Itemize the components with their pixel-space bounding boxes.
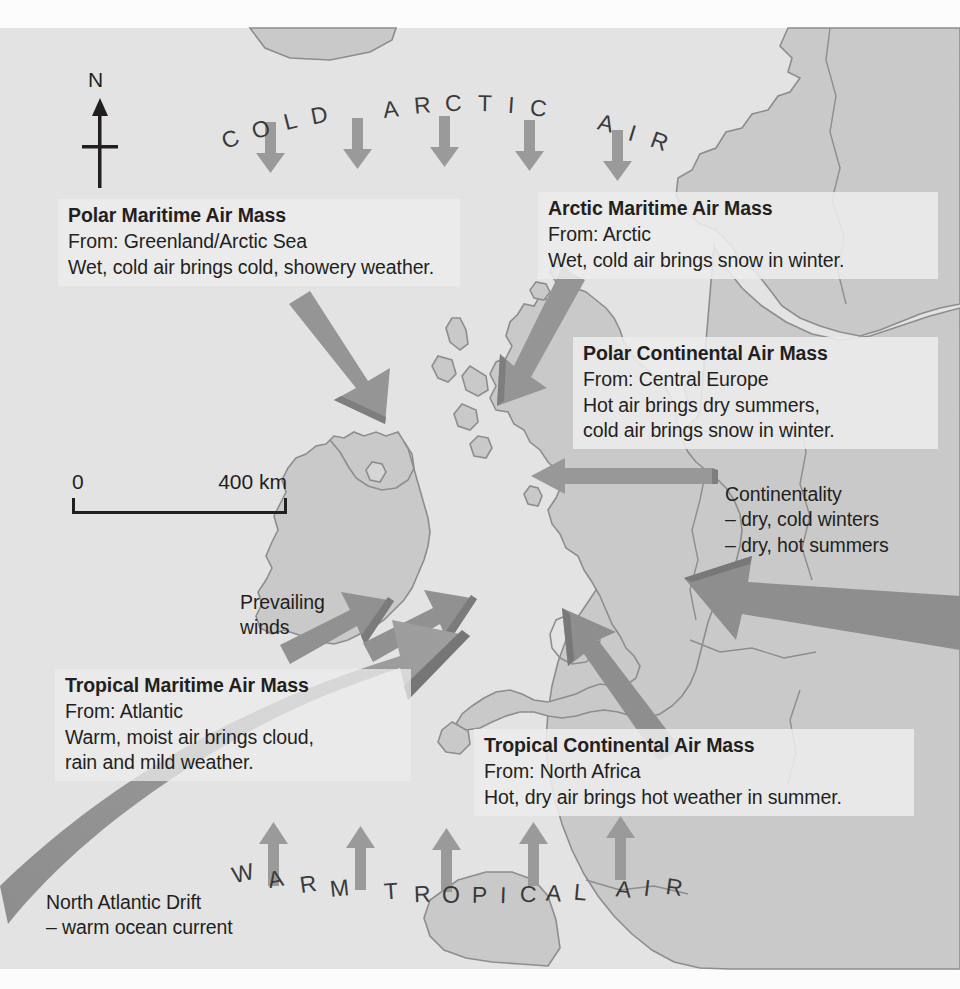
- annotation-line: From: Atlantic: [65, 699, 401, 724]
- warm-tropical-air-letter: O: [442, 882, 460, 909]
- annotation-line: Wet, cold air brings snow in winter.: [548, 248, 928, 273]
- scale-bar-end-label: 400 km: [218, 470, 287, 494]
- scale-bar-graphic: [72, 498, 287, 514]
- label-continentality: Continentality – dry, cold winters – dry…: [725, 482, 889, 558]
- compass-needle-icon: [78, 94, 122, 189]
- annotation-tropical-continental: Tropical Continental Air Mass From: Nort…: [474, 729, 914, 816]
- annotation-title: Polar Maritime Air Mass: [68, 203, 450, 228]
- scale-bar-start-label: 0: [72, 470, 84, 494]
- annotation-polar-continental: Polar Continental Air Mass From: Central…: [573, 337, 938, 449]
- prevailing-winds-line: Prevailing: [240, 590, 325, 615]
- annotation-title: Polar Continental Air Mass: [583, 341, 928, 366]
- warm-tropical-air-letter: C: [519, 881, 537, 909]
- continentality-line: Continentality: [725, 482, 889, 507]
- label-north-atlantic-drift: North Atlantic Drift – warm ocean curren…: [46, 890, 233, 941]
- annotation-line: From: Arctic: [548, 222, 928, 247]
- annotation-title: Tropical Maritime Air Mass: [65, 673, 401, 698]
- annotation-line: Warm, moist air brings cloud,: [65, 725, 401, 750]
- warm-tropical-air-letter: L: [573, 878, 588, 906]
- land-orkney: [530, 282, 550, 300]
- warm-tropical-air-letter: A: [615, 875, 633, 903]
- warm-tropical-air-letter: T: [383, 878, 399, 906]
- annotation-line: cold air brings snow in winter.: [583, 418, 928, 443]
- warm-tropical-air-letter: R: [298, 870, 318, 899]
- annotation-polar-maritime: Polar Maritime Air Mass From: Greenland/…: [58, 199, 460, 286]
- continentality-line: – dry, hot summers: [725, 533, 889, 558]
- warm-tropical-air-letter: I: [500, 882, 507, 909]
- air-masses-map-figure: N 0 400 km C O L D A R C T I C A I R W A: [0, 0, 960, 989]
- compass-rose: N: [78, 72, 122, 187]
- annotation-line: Wet, cold air brings cold, showery weath…: [68, 255, 450, 280]
- compass-north-label: N: [88, 68, 103, 92]
- annotation-title: Tropical Continental Air Mass: [484, 733, 904, 758]
- annotation-line: Hot air brings dry summers,: [583, 393, 928, 418]
- annotation-line: From: North Africa: [484, 759, 904, 784]
- warm-tropical-air-letter: R: [414, 881, 432, 909]
- cold-arctic-air-letter: R: [413, 91, 432, 119]
- annotation-line: From: Central Europe: [583, 367, 928, 392]
- annotation-line: rain and mild weather.: [65, 750, 401, 775]
- annotation-arctic-maritime: Arctic Maritime Air Mass From: Arctic We…: [538, 192, 938, 279]
- warm-tropical-air-letter: M: [329, 874, 351, 903]
- north-atlantic-drift-line: – warm ocean current: [46, 915, 233, 940]
- cold-arctic-air-letter: A: [381, 95, 400, 124]
- annotation-title: Arctic Maritime Air Mass: [548, 196, 928, 221]
- warm-tropical-air-letter: A: [545, 879, 562, 907]
- annotation-tropical-maritime: Tropical Maritime Air Mass From: Atlanti…: [55, 669, 411, 781]
- scale-bar: 0 400 km: [72, 470, 287, 514]
- label-prevailing-winds: Prevailing winds: [240, 590, 325, 641]
- continentality-line: – dry, cold winters: [725, 507, 889, 532]
- north-atlantic-drift-line: North Atlantic Drift: [46, 890, 233, 915]
- annotation-line: From: Greenland/Arctic Sea: [68, 229, 450, 254]
- warm-tropical-air-letter: P: [472, 882, 488, 909]
- cold-arctic-air-letter: C: [528, 94, 548, 123]
- cold-arctic-air-letter: C: [445, 90, 463, 118]
- cold-arctic-air-letter: T: [478, 90, 493, 117]
- prevailing-winds-line: winds: [240, 615, 325, 640]
- annotation-line: Hot, dry air brings hot weather in summe…: [484, 785, 904, 810]
